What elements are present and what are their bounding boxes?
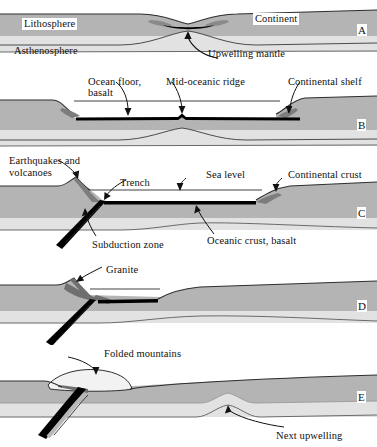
right-continent-d xyxy=(158,281,377,311)
label-subduction-zone: Subduction zone xyxy=(92,239,164,251)
panel-letter-e: E xyxy=(357,391,366,403)
granite-arrow xyxy=(76,275,84,282)
label-continental-shelf: Continental shelf xyxy=(288,76,362,88)
lower-band-d xyxy=(0,311,377,323)
label-earthquakes-line1: Earthquakes and xyxy=(9,155,80,167)
label-next-upwelling: Next upwelling xyxy=(276,430,342,442)
panel-a-continental-rifting: Lithosphere Continent Asthenosphere Upwe… xyxy=(0,0,377,68)
label-granite: Granite xyxy=(106,264,138,276)
panel-b-ocean-basin: Ocean floor, basalt Mid-oceanic ridge Co… xyxy=(0,68,377,148)
label-ocean-floor-line1: Ocean floor, xyxy=(88,76,141,88)
panel-letter-a: A xyxy=(357,24,367,36)
label-folded-mountains: Folded mountains xyxy=(104,348,181,360)
folded-mountains-leader xyxy=(68,357,94,369)
panel-d-granite: Granite D xyxy=(0,253,377,345)
label-continent: Continent xyxy=(253,13,299,25)
label-trench: Trench xyxy=(120,177,150,189)
panel-c-subduction: Earthquakes and volcanoes Trench Sea lev… xyxy=(0,150,377,253)
panel-letter-c: C xyxy=(357,207,366,219)
folded-mountain-dome xyxy=(48,370,132,392)
label-ocean-floor-line2: basalt xyxy=(88,87,113,99)
oceanic-crust-c xyxy=(104,201,256,205)
ocean-floor-arrow xyxy=(125,108,132,116)
granite-leader xyxy=(80,267,102,279)
panel-e-collision: Folded mountains Next upwelling E xyxy=(0,345,377,447)
label-oceanic-crust-basalt: Oceanic crust, basalt xyxy=(207,235,296,247)
label-lithosphere: Lithosphere xyxy=(22,18,77,30)
label-upwelling-mantle: Upwelling mantle xyxy=(208,48,285,60)
wilson-cycle-figure: Lithosphere Continent Asthenosphere Upwe… xyxy=(0,0,377,447)
label-sea-level: Sea level xyxy=(206,169,245,181)
ridge-arrow xyxy=(179,106,186,114)
label-earthquakes-line2: volcanoes xyxy=(9,167,52,179)
label-asthenosphere: Asthenosphere xyxy=(14,45,78,57)
label-continental-crust: Continental crust xyxy=(288,169,362,181)
panel-letter-b: B xyxy=(357,119,366,131)
label-mid-oceanic-ridge: Mid-oceanic ridge xyxy=(166,76,245,88)
oceanic-crust-layer xyxy=(76,114,300,121)
trench-arrow xyxy=(104,192,111,200)
panel-letter-d: D xyxy=(357,300,367,312)
